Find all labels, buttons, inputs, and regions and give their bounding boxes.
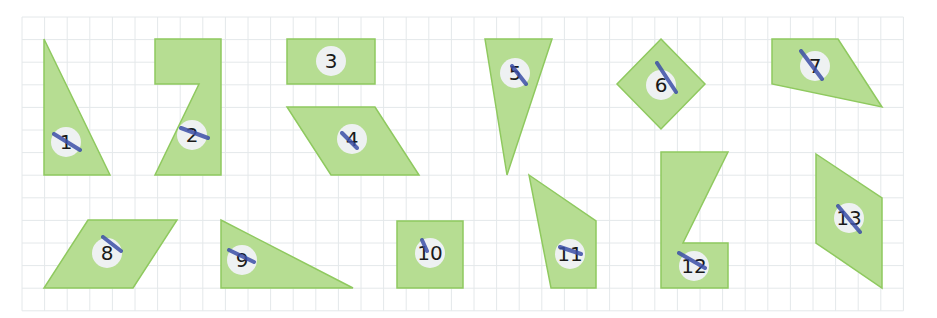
- shape-6: 6: [617, 39, 705, 129]
- shape-number: 3: [325, 49, 338, 73]
- shape-4: 4: [287, 107, 419, 175]
- shape-13: 13: [816, 154, 882, 288]
- shapes-layer: 12345678910111213: [44, 39, 882, 288]
- shape-11: 11: [529, 175, 596, 288]
- shape-worksheet: 12345678910111213: [0, 0, 937, 318]
- shape-9: 9: [221, 220, 353, 288]
- shape-3: 3: [287, 39, 375, 84]
- shape-8: 8: [44, 220, 177, 288]
- shape-7: 7: [772, 39, 882, 107]
- shape-10: 10: [397, 221, 463, 288]
- shape-polygon: [529, 175, 596, 288]
- shape-number: 10: [417, 241, 442, 265]
